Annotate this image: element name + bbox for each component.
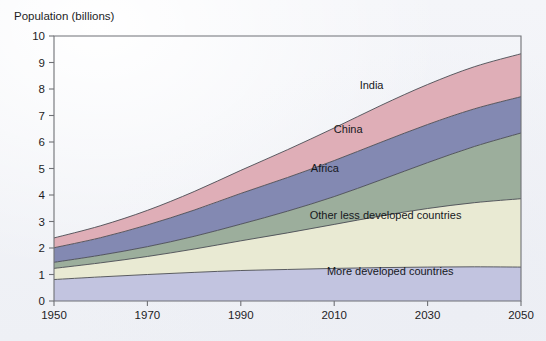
x-tick-label: 2010	[321, 309, 347, 321]
y-tick-label: 2	[39, 242, 45, 254]
x-tick-label: 2050	[508, 309, 534, 321]
series-label: Other less developed countries	[310, 209, 462, 221]
x-tick-label: 1990	[228, 309, 254, 321]
x-tick-label: 1970	[135, 309, 161, 321]
y-tick-label: 8	[39, 83, 45, 95]
y-tick-label: 4	[39, 189, 46, 201]
y-tick-label: 0	[39, 295, 45, 307]
y-tick-label: 7	[39, 110, 45, 122]
x-tick-label: 1950	[41, 309, 67, 321]
series-label: More developed countries	[327, 265, 454, 277]
series-label: Africa	[311, 162, 340, 174]
y-tick-label: 9	[39, 57, 45, 69]
stacked-area-chart: Population (billions) 012345678910 19501…	[0, 0, 546, 341]
y-axis-ticks: 012345678910	[32, 30, 54, 307]
series-label: India	[360, 79, 385, 91]
chart-plot-area: 012345678910 195019701990201020302050 In…	[0, 0, 546, 341]
x-axis-ticks: 195019701990201020302050	[41, 301, 534, 321]
y-tick-label: 3	[39, 216, 45, 228]
x-tick-label: 2030	[415, 309, 441, 321]
y-tick-label: 6	[39, 136, 45, 148]
y-tick-label: 1	[39, 269, 45, 281]
series-label: China	[334, 123, 364, 135]
y-tick-label: 10	[32, 30, 45, 42]
y-tick-label: 5	[39, 163, 45, 175]
